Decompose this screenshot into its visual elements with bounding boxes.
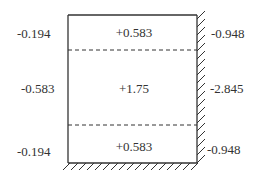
- left-value-middle: -0.583: [21, 82, 55, 96]
- right-value-top: -0.948: [211, 27, 245, 41]
- inner-value-bottom: +0.583: [116, 140, 153, 154]
- inner-value-top: +0.583: [116, 26, 153, 40]
- right-value-middle: -2.845: [210, 82, 244, 96]
- inner-value-middle: +1.75: [119, 82, 149, 96]
- right-fixed-support-hatching: [197, 11, 205, 163]
- left-value-top: -0.194: [17, 27, 51, 41]
- right-value-bottom: -0.948: [207, 143, 241, 157]
- bottom-fixed-support-hatching: [63, 163, 198, 170]
- left-value-bottom: -0.194: [17, 145, 51, 159]
